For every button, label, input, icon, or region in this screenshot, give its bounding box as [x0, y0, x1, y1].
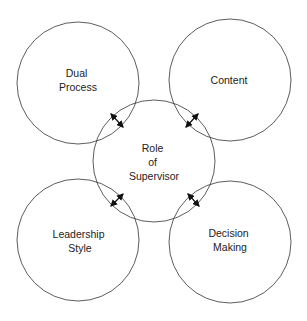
arrow-icon [111, 114, 123, 127]
label-decision-making: Decision Making [208, 227, 251, 253]
arrow-icon [111, 194, 123, 206]
arrow-icon [186, 114, 198, 127]
arrow-icon [188, 194, 199, 206]
circle-leadership-style [17, 179, 139, 301]
label-role-of-supervisor: Role of Supervisor [129, 142, 180, 182]
diagram-canvas: Dual Process Content Role of Supervisor … [0, 0, 307, 321]
label-leadership-style: Leadership Style [53, 228, 108, 254]
label-dual-process: Dual Process [59, 67, 97, 93]
label-content: Content [211, 74, 248, 86]
